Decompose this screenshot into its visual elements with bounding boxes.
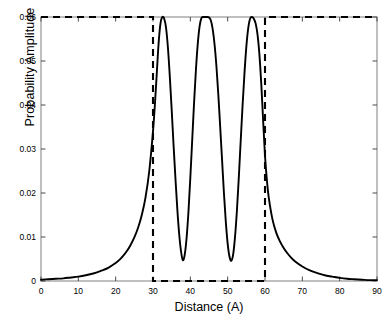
figure-container: 0102030405060708090 00.010.020.030.040.0… bbox=[0, 0, 392, 321]
plot-frame bbox=[41, 17, 377, 281]
x-tick-label: 40 bbox=[186, 286, 196, 296]
probability-amplitude-curve bbox=[41, 17, 377, 280]
y-tick-label: 0.02 bbox=[19, 188, 36, 198]
potential-barrier-line bbox=[41, 17, 377, 281]
x-axis-title: Distance (A) bbox=[41, 300, 377, 314]
x-tick-label: 30 bbox=[148, 286, 158, 296]
x-tick-label: 70 bbox=[298, 286, 308, 296]
x-tick-label: 90 bbox=[372, 286, 382, 296]
x-tick-label: 20 bbox=[111, 286, 121, 296]
y-tick-label: 0 bbox=[31, 276, 36, 286]
x-axis-ticks: 0102030405060708090 bbox=[39, 17, 382, 296]
y-axis-ticks: 00.010.020.030.040.050.06 bbox=[19, 12, 377, 286]
y-axis-title: Probability Amplitude bbox=[23, 0, 37, 157]
x-tick-label: 80 bbox=[335, 286, 345, 296]
x-tick-label: 50 bbox=[223, 286, 233, 296]
x-tick-label: 60 bbox=[260, 286, 270, 296]
x-tick-label: 10 bbox=[74, 286, 84, 296]
probability-amplitude-chart: 0102030405060708090 00.010.020.030.040.0… bbox=[0, 0, 392, 321]
y-tick-label: 0.01 bbox=[19, 232, 36, 242]
x-tick-label: 0 bbox=[39, 286, 44, 296]
